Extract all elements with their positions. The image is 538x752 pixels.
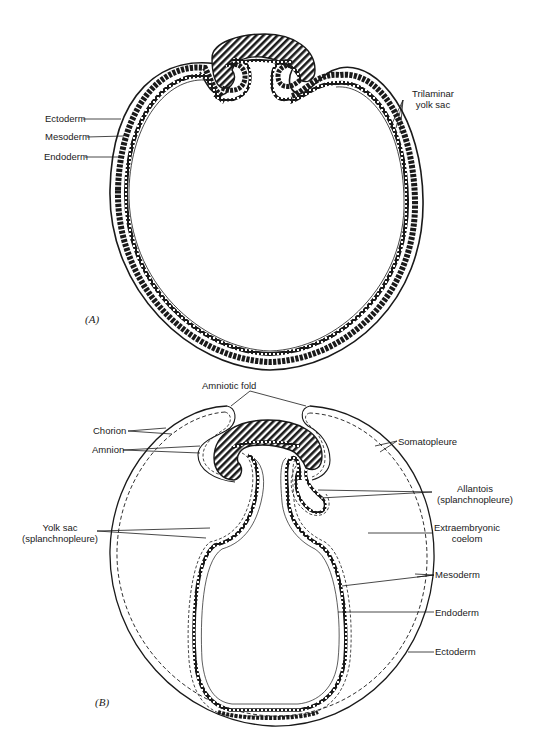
- chorion-outer: [110, 406, 434, 726]
- panel-label-b: (B): [95, 696, 109, 708]
- label-extraembryonic-coelom: Extraembryonic coelom: [432, 522, 502, 544]
- label-ectoderm-b: Ectoderm: [435, 646, 476, 657]
- chorion-mesoderm: [117, 412, 427, 716]
- panel-b-allantois: [291, 466, 329, 515]
- label-endoderm-b: Endoderm: [435, 607, 479, 618]
- label-yolk-sac: Yolk sac (splanchnopleure): [20, 522, 100, 544]
- panel-label-a: (A): [85, 313, 99, 325]
- panel-b-chorion: [110, 406, 434, 726]
- label-mesoderm-b: Mesoderm: [435, 569, 480, 580]
- label-amniotic-fold: Amniotic fold: [202, 380, 256, 391]
- label-trilaminar-yolk-sac: Trilaminar yolk sac: [408, 88, 458, 110]
- label-mesoderm-a: Mesoderm: [45, 131, 90, 142]
- panel-a-yolk-sac: [110, 63, 423, 370]
- mesoderm-band: [118, 67, 415, 362]
- label-chorion: Chorion: [93, 425, 126, 436]
- label-endoderm-a: Endoderm: [44, 151, 88, 162]
- panel-b-yolk-sac: [188, 453, 351, 718]
- label-ectoderm-a: Ectoderm: [45, 113, 86, 124]
- ectoderm-line: [110, 63, 423, 370]
- label-somatopleure: Somatopleure: [398, 436, 457, 447]
- label-amnion: Amnion: [92, 444, 124, 455]
- label-allantois: Allantois (splanchnopleure): [433, 483, 517, 505]
